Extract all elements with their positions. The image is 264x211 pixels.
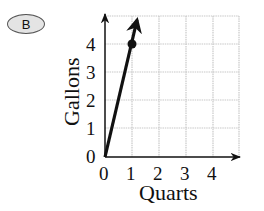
y-tick-1: 1 bbox=[86, 118, 96, 139]
x-axis-label: Quarts bbox=[139, 180, 198, 205]
data-point bbox=[128, 40, 137, 49]
x-tick-0: 0 bbox=[99, 163, 109, 184]
y-tick-2: 2 bbox=[86, 90, 96, 111]
y-tick-3: 3 bbox=[86, 62, 96, 83]
y-tick-4: 4 bbox=[86, 34, 96, 55]
y-tick-0: 0 bbox=[86, 146, 96, 167]
x-tick-1: 1 bbox=[126, 163, 136, 184]
grid bbox=[105, 16, 239, 157]
line-chart: 4 3 2 1 0 0 1 2 3 4 Quarts Gallons bbox=[0, 0, 264, 211]
y-axis-label: Gallons bbox=[59, 58, 84, 126]
x-tick-4: 4 bbox=[207, 163, 217, 184]
